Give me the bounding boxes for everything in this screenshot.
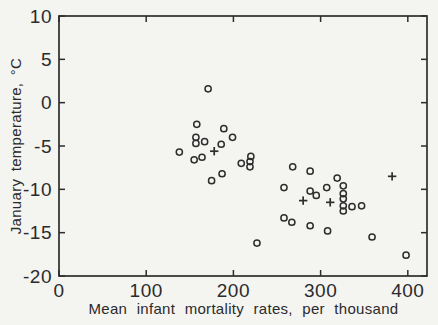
y-tick-label: 0: [41, 92, 52, 113]
data-point-circle: [193, 134, 199, 140]
y-tick-label: -20: [23, 266, 52, 287]
data-point-circle: [229, 134, 235, 140]
y-axis-title: January temperature, °C: [7, 58, 24, 234]
data-point-circle: [238, 160, 244, 166]
data-point-circle: [290, 164, 296, 170]
data-point-circle: [403, 252, 409, 258]
data-point-circle: [191, 157, 197, 163]
data-point-circle: [307, 223, 313, 229]
data-point-circle: [289, 219, 295, 225]
y-tick-label: 10: [30, 6, 52, 27]
x-tick-label: 100: [130, 280, 163, 301]
data-point-circle: [307, 168, 313, 174]
data-point-circle: [219, 171, 225, 177]
y-tick-label: 5: [41, 49, 52, 70]
data-point-circle: [205, 86, 211, 92]
data-point-circle: [334, 175, 340, 181]
y-tick-label: -10: [23, 179, 52, 200]
x-axis-title: Mean infant mortality rates, per thousan…: [59, 300, 428, 317]
data-point-circle: [209, 178, 215, 184]
x-tick-label: 300: [304, 280, 337, 301]
data-point-circle: [358, 203, 364, 209]
x-tick-label: 0: [53, 280, 64, 301]
x-tick-label: 200: [217, 280, 250, 301]
axes-frame: [59, 16, 427, 276]
y-tick-label: -15: [23, 222, 52, 243]
data-point-circle: [193, 140, 199, 146]
data-point-circle: [349, 204, 355, 210]
chart-canvas: 01002003004001050-5-10-15-20: [0, 0, 438, 325]
data-point-circle: [221, 126, 227, 132]
y-tick-label: -5: [34, 136, 52, 157]
data-point-circle: [194, 121, 200, 127]
data-point-circle: [369, 234, 375, 240]
scatter-plot-figure: 01002003004001050-5-10-15-20 Mean infant…: [0, 0, 438, 325]
data-point-circle: [281, 215, 287, 221]
data-point-circle: [340, 183, 346, 189]
data-point-circle: [199, 154, 205, 160]
data-point-circle: [202, 139, 208, 145]
data-point-circle: [218, 141, 224, 147]
data-point-circle: [324, 185, 330, 191]
data-point-circle: [324, 228, 330, 234]
data-point-circle: [281, 185, 287, 191]
data-point-circle: [313, 192, 319, 198]
data-point-circle: [254, 240, 260, 246]
x-tick-label: 400: [391, 280, 424, 301]
data-point-circle: [176, 149, 182, 155]
data-point-circle: [307, 188, 313, 194]
